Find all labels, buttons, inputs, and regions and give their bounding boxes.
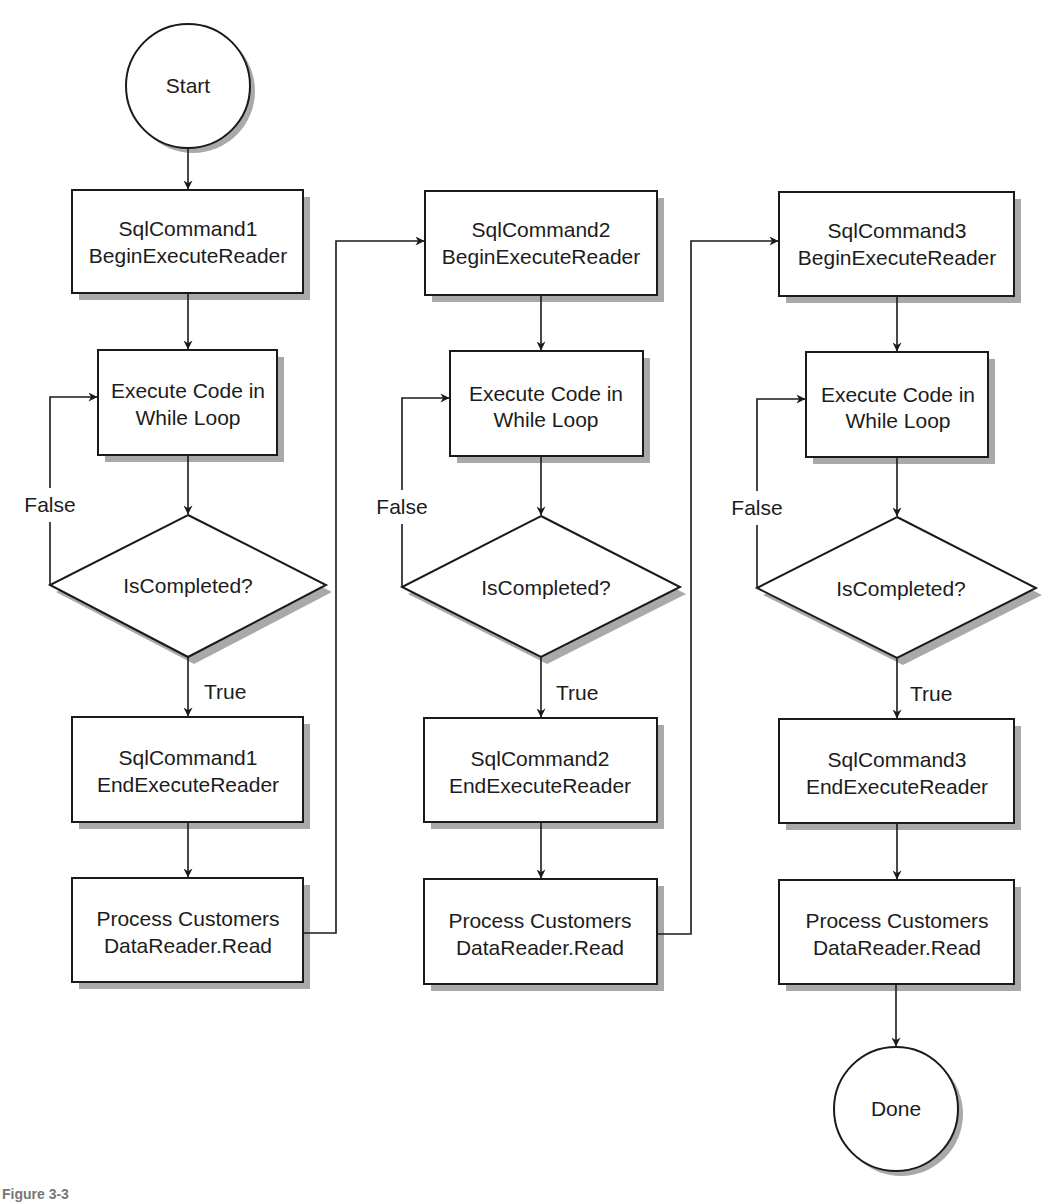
- decision1-label: IsCompleted?: [123, 574, 253, 597]
- end3-line1: SqlCommand3: [828, 748, 967, 771]
- process-customers-3: Process Customers DataReader.Read: [779, 880, 1021, 991]
- execute-loop-1: Execute Code in While Loop: [98, 350, 284, 462]
- execute-loop-3: Execute Code in While Loop: [806, 352, 995, 464]
- decision-is-completed-3: IsCompleted?: [757, 517, 1042, 665]
- column-1: SqlCommand1 BeginExecuteReader Execute C…: [24, 190, 332, 989]
- loop3-line2: While Loop: [845, 409, 950, 432]
- false-label-1: False: [24, 493, 75, 516]
- edge-false3-upper: [757, 399, 805, 491]
- end2-line1: SqlCommand2: [471, 747, 610, 770]
- false-label-3: False: [731, 496, 782, 519]
- begin1-line2: BeginExecuteReader: [89, 244, 287, 267]
- end1-line2: EndExecuteReader: [97, 773, 279, 796]
- loop2-line2: While Loop: [493, 408, 598, 431]
- edge-false2-upper: [402, 398, 449, 490]
- decision-is-completed-1: IsCompleted?: [50, 515, 332, 664]
- decision-is-completed-2: IsCompleted?: [402, 516, 686, 664]
- start-node: Start: [126, 24, 255, 153]
- true-label-2: True: [556, 681, 598, 704]
- figure-caption: Figure 3-3: [2, 1186, 69, 1202]
- begin-execute-reader-3: SqlCommand3 BeginExecuteReader: [779, 192, 1021, 303]
- begin-execute-reader-2: SqlCommand2 BeginExecuteReader: [425, 191, 664, 302]
- done-label: Done: [871, 1097, 921, 1120]
- process2-line1: Process Customers: [448, 909, 631, 932]
- end-execute-reader-2: SqlCommand2 EndExecuteReader: [424, 718, 664, 829]
- loop1-line2: While Loop: [135, 406, 240, 429]
- end-execute-reader-3: SqlCommand3 EndExecuteReader: [779, 719, 1021, 830]
- end1-line1: SqlCommand1: [119, 746, 258, 769]
- loop1-line1: Execute Code in: [111, 379, 265, 402]
- begin3-line2: BeginExecuteReader: [798, 246, 996, 269]
- loop3-line1: Execute Code in: [821, 383, 975, 406]
- loop2-line1: Execute Code in: [469, 382, 623, 405]
- start-label: Start: [166, 74, 211, 97]
- false-label-2: False: [376, 495, 427, 518]
- begin-execute-reader-1: SqlCommand1 BeginExecuteReader: [72, 190, 310, 300]
- end2-line2: EndExecuteReader: [449, 774, 631, 797]
- end-execute-reader-1: SqlCommand1 EndExecuteReader: [72, 717, 310, 829]
- process-customers-1: Process Customers DataReader.Read: [72, 878, 310, 989]
- process2-line2: DataReader.Read: [456, 936, 624, 959]
- begin3-line1: SqlCommand3: [828, 219, 967, 242]
- process3-line2: DataReader.Read: [813, 936, 981, 959]
- process-customers-2: Process Customers DataReader.Read: [424, 879, 664, 991]
- end3-line2: EndExecuteReader: [806, 775, 988, 798]
- decision2-label: IsCompleted?: [481, 576, 611, 599]
- process1-line1: Process Customers: [96, 907, 279, 930]
- true-label-3: True: [910, 682, 952, 705]
- begin1-line1: SqlCommand1: [119, 217, 258, 240]
- begin2-line1: SqlCommand2: [472, 218, 611, 241]
- decision3-label: IsCompleted?: [836, 577, 966, 600]
- done-node: Done: [834, 1047, 963, 1176]
- begin2-line2: BeginExecuteReader: [442, 245, 640, 268]
- true-label-1: True: [204, 680, 246, 703]
- process1-line2: DataReader.Read: [104, 934, 272, 957]
- edge-false1-upper: [50, 397, 97, 488]
- column-3: SqlCommand3 BeginExecuteReader Execute C…: [731, 192, 1042, 991]
- execute-loop-2: Execute Code in While Loop: [450, 351, 650, 463]
- process3-line1: Process Customers: [805, 909, 988, 932]
- column-2: SqlCommand2 BeginExecuteReader Execute C…: [376, 191, 686, 991]
